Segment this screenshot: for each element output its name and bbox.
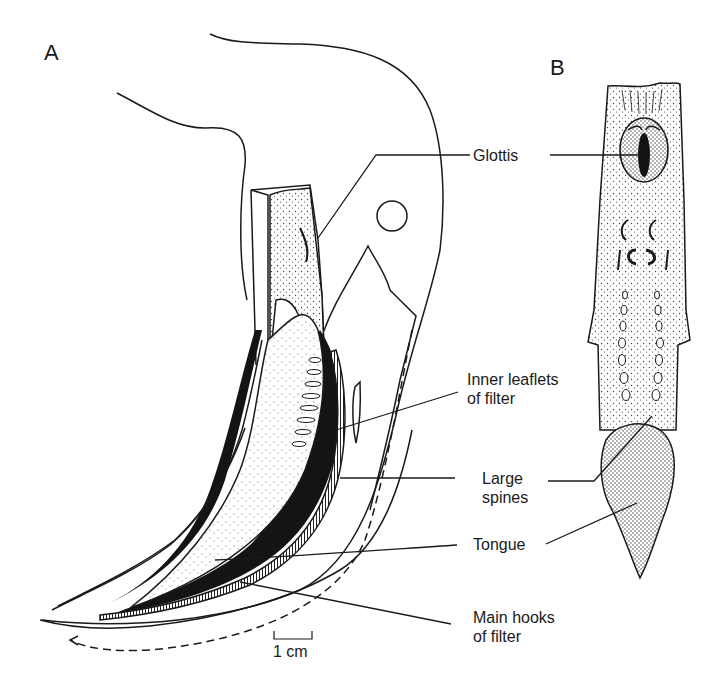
leader-glottis-a [318,155,470,238]
tongue-b [601,424,674,578]
scale-bar [274,631,312,639]
throat-outline [117,93,247,300]
label-tongue-text: Tongue [473,535,526,554]
eye-circle [377,201,407,231]
scale-bar-label: 1 cm [273,642,308,661]
panel-b-letter: B [550,55,565,81]
label-main-hooks: Main hooks of filter [473,608,555,646]
label-large-spines-line1: Large [482,469,528,488]
label-inner-leaflets: Inner leaflets of filter [467,370,559,408]
panel-a-letter: A [44,40,59,66]
small-loop [353,382,360,443]
figure-drawing [0,0,728,690]
label-main-hooks-line2: of filter [473,627,555,646]
panel-a-drawing [40,34,470,651]
label-glottis: Glottis [473,146,518,165]
label-large-spines-line2: spines [482,488,528,507]
panel-b-drawing [546,83,690,578]
label-inner-leaflets-line1: Inner leaflets [467,370,559,389]
leader-main-hooks [240,582,451,624]
label-inner-leaflets-line2: of filter [467,389,559,408]
label-glottis-text: Glottis [473,146,518,165]
anatomical-figure: A B Glottis Inner leaflets of filter Lar… [0,0,728,690]
label-tongue: Tongue [473,535,526,554]
dashed-arrowhead [70,636,78,645]
label-main-hooks-line1: Main hooks [473,608,555,627]
label-large-spines: Large spines [482,469,528,507]
